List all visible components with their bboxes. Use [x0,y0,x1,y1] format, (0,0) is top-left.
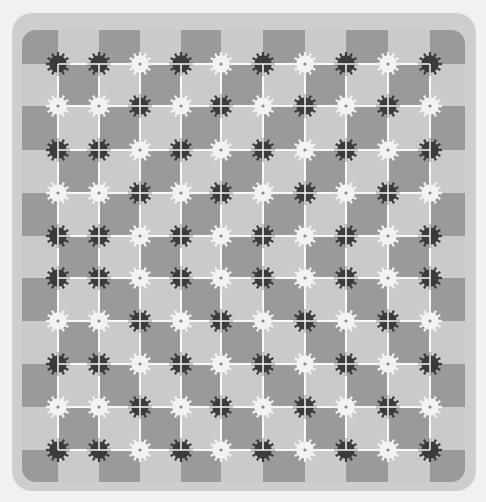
board-cell [140,236,181,278]
board-cell [388,407,430,450]
board-cell [346,364,388,407]
board-cell [346,236,388,278]
board-cell [221,64,263,106]
board-cell [346,407,388,450]
board-cell [221,106,263,150]
board-cell [263,106,305,150]
board-cell [305,407,346,450]
board-cell [388,193,430,236]
board-cell [181,106,221,150]
board-cell [140,278,181,321]
board-cell [58,106,99,150]
board-cell [388,106,430,150]
board-cell [221,364,263,407]
board-cell [99,150,140,193]
board-cell [181,364,221,407]
board-cell [346,321,388,364]
board-cell [140,106,181,150]
board-cell [140,193,181,236]
board-cell [388,364,430,407]
board-cell [58,321,99,364]
board-cell [346,150,388,193]
board-cell [305,150,346,193]
illusion-canvas [0,0,486,502]
board-cell [346,64,388,106]
board-cell [305,236,346,278]
board-cell [99,64,140,106]
board-cell [346,193,388,236]
board-cell [305,321,346,364]
board-cell [181,236,221,278]
board-cell [221,407,263,450]
board-cell [58,64,99,106]
board-cell [140,150,181,193]
board-cell [388,150,430,193]
board-cell [346,106,388,150]
board-cell [263,64,305,106]
board-cell [99,193,140,236]
board-cell [388,236,430,278]
board-cell [140,364,181,407]
board-cell [140,64,181,106]
board-cell [181,193,221,236]
board-cell [263,364,305,407]
board-cell [305,278,346,321]
board-cell [58,278,99,321]
board-cell [305,64,346,106]
board-cell [263,321,305,364]
board-cell [221,193,263,236]
board-cell [58,236,99,278]
board-cell [181,321,221,364]
board-cell [99,407,140,450]
board-cell [263,278,305,321]
board-cell [99,364,140,407]
board-cell [99,321,140,364]
board-cell [305,193,346,236]
board-cell [58,407,99,450]
board-cell [181,407,221,450]
board-cell [221,278,263,321]
board-cell [263,407,305,450]
board-cell [263,193,305,236]
board-cell [388,64,430,106]
board-cell [221,150,263,193]
board-cell [58,193,99,236]
board-cell [263,236,305,278]
board-cell [346,278,388,321]
board-cell [221,321,263,364]
board-cell [99,106,140,150]
board-cell [99,278,140,321]
board-cell [305,364,346,407]
board-cell [181,64,221,106]
board-cell [181,278,221,321]
board-cell [58,364,99,407]
board-cell [140,321,181,364]
board-cell [388,278,430,321]
board-cell [263,150,305,193]
board-cell [221,236,263,278]
board-cell [388,321,430,364]
board-cell [99,236,140,278]
checkerboard [22,30,465,482]
board-cell [58,150,99,193]
board-cell [140,407,181,450]
board-cell [305,106,346,150]
board-cell [181,150,221,193]
